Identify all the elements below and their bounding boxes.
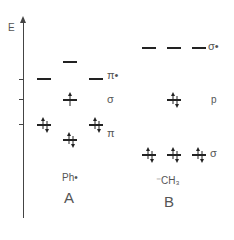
- pi-star-level: [37, 78, 51, 80]
- species-b: ⁻CH₃: [156, 175, 180, 186]
- panel-b-title: B: [164, 193, 174, 210]
- sigma-label: σ: [107, 93, 114, 105]
- p-label: p: [211, 94, 217, 105]
- pi-star-label: π•: [107, 69, 118, 81]
- electron-pair-icon: [40, 117, 50, 133]
- single-electron-up-icon: [66, 92, 74, 106]
- electron-pair-icon: [145, 147, 155, 163]
- sigma-star-level: [142, 47, 156, 49]
- electron-pair-icon: [66, 132, 76, 148]
- pi-label: π: [107, 127, 115, 139]
- species-a: Ph•: [62, 172, 78, 183]
- sigma-label: σ: [210, 147, 217, 159]
- axis-tick: [19, 124, 24, 125]
- electron-pair-icon: [170, 147, 180, 163]
- sigma-star-level: [167, 47, 181, 49]
- sigma-star-label: σ•: [208, 40, 219, 52]
- axis-tick: [19, 79, 24, 80]
- electron-pair-icon: [195, 147, 205, 163]
- panel-a-title: A: [64, 189, 74, 206]
- energy-axis: [23, 22, 24, 218]
- sigma-star-level: [192, 47, 206, 49]
- energy-axis-label: E: [8, 22, 15, 33]
- pi-star-level: [63, 61, 77, 63]
- pi-star-level: [89, 78, 103, 80]
- electron-pair-icon: [170, 92, 180, 108]
- electron-pair-icon: [92, 117, 102, 133]
- axis-tick: [19, 99, 24, 100]
